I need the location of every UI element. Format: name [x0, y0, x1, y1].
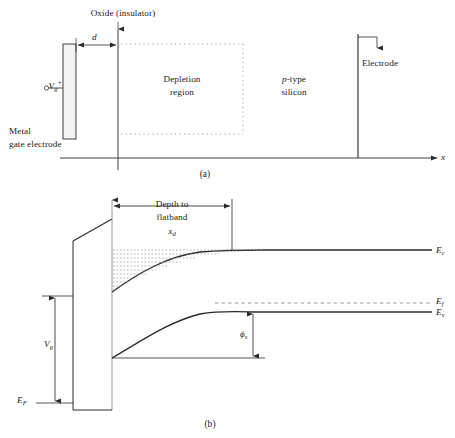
metal-gate-rect: [63, 44, 76, 139]
substrate-label-line1: p-type: [256, 74, 332, 85]
energy-level-ec-label: Ec: [436, 245, 445, 257]
depletion-region-label-line2: region: [140, 87, 224, 98]
substrate-type-suffix: -type: [287, 74, 306, 84]
depth-to-flatband-line2: flatband: [131, 212, 213, 223]
electrode-label: Electrode: [362, 58, 398, 69]
metal-gate-label-line2: gate electrode: [9, 139, 62, 150]
valence-band-curve: [112, 312, 432, 359]
panel-a-graphics: [44, 22, 437, 170]
surface-potential-label: ϕs: [240, 329, 248, 341]
xd-sub: d: [172, 230, 175, 237]
oxide-thickness-label: d: [92, 32, 97, 43]
ef-sub: f: [442, 300, 444, 307]
depth-to-flatband-symbol: xd: [131, 226, 213, 238]
electrode-leader: [358, 37, 377, 48]
oxide-insulator-label: Oxide (insulator): [68, 8, 178, 19]
panel-b-graphics: [36, 199, 432, 410]
figure-root: Oxide (insulator) d Vg+ Metal gate elect…: [0, 0, 455, 438]
depletion-hatch-fill: [113, 250, 262, 290]
x-axis-label-a: x: [441, 152, 445, 163]
metal-gate-label-line1: Metal: [9, 126, 31, 137]
phi-sub: s: [245, 333, 248, 340]
vg-sub-b: g: [50, 343, 53, 350]
substrate-label-line2: silicon: [256, 87, 332, 98]
panel-b-caption: (b): [180, 419, 240, 430]
gate-voltage-label-b: Vg: [44, 339, 53, 351]
gate-voltage-label-a: Vg+: [39, 68, 62, 104]
gate-voltage-sub-a: g: [54, 85, 57, 92]
oxide-slope-top: [73, 219, 112, 241]
conduction-band-curve: [112, 250, 432, 292]
depth-to-flatband-line1: Depth to: [131, 199, 213, 210]
ev-sub: v: [442, 311, 445, 318]
ec-sub: c: [442, 249, 445, 256]
panel-a-caption: (a): [175, 169, 235, 180]
energy-level-ev-label: Ev: [436, 307, 445, 319]
metal-fermi-label: EF: [17, 395, 27, 407]
depletion-region-label-line1: Depletion: [140, 74, 224, 85]
efm-sub: F: [23, 399, 27, 406]
gate-voltage-sup-a: +: [58, 79, 62, 86]
